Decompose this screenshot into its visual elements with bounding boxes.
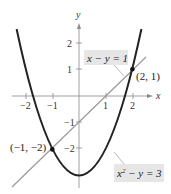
x-tick-1: 1 [103, 100, 108, 111]
x-axis-label: x [155, 90, 161, 101]
x-tick-2: 2 [130, 100, 135, 111]
chart: x y −2 −1 1 2 2 1 −1 −2 (2, 1) (−1, −2) … [0, 0, 171, 194]
point-label-2-1: (2, 1) [136, 70, 160, 83]
line-equation-callout: x − y = 1 [84, 50, 128, 76]
point-2-1 [130, 67, 135, 72]
y-tick-m2: −2 [64, 143, 75, 154]
x-tick-m2: −2 [20, 100, 31, 111]
point-label-m1-m2: (−1, −2) [10, 141, 47, 154]
y-axis-label: y [75, 9, 81, 20]
parabola-equation-callout: x2 − y = 3 [114, 152, 164, 182]
y-tick-1: 1 [67, 64, 72, 75]
y-tick-m1: −1 [64, 117, 75, 128]
x-tick-m1: −1 [47, 100, 58, 111]
y-axis-arrow-icon [77, 23, 81, 29]
x-axis-arrow-icon [147, 94, 153, 98]
y-tick-2: 2 [67, 38, 72, 49]
point-m1-m2 [50, 147, 55, 152]
line-equation-label: x − y = 1 [86, 52, 128, 64]
